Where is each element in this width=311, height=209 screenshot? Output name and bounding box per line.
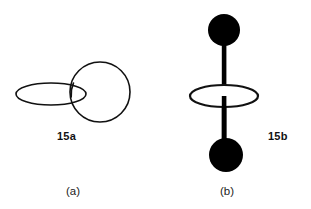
bottom-stopper-disc [209,138,243,172]
structure-label-15b: 15b [268,131,288,142]
circle-outline [70,62,130,122]
structure-label-15a: 15a [57,131,76,142]
figure-root: 15a (a) 15b (b) [0,0,311,209]
panel-b: 15b (b) [155,0,311,209]
panel-caption-b: (b) [220,186,234,198]
diagram-a-interlocked-circle-ellipse [0,0,155,209]
top-stopper-disc [208,14,240,46]
panel-caption-a: (a) [66,186,80,198]
diagram-b-rotaxane-dumbbell [155,0,311,209]
panel-a: 15a (a) [0,0,155,209]
ellipse-outline [16,83,86,105]
